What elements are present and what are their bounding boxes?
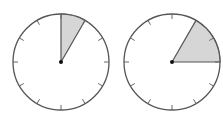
left-clock bbox=[13, 14, 109, 110]
center-dot bbox=[170, 60, 174, 64]
right-clock bbox=[124, 14, 220, 110]
center-dot bbox=[59, 60, 63, 64]
clock-diagram bbox=[0, 0, 223, 117]
clock-faces-canvas bbox=[0, 0, 223, 117]
